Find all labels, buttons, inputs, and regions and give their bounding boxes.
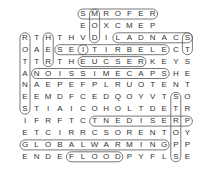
grid-letter[interactable]: T — [31, 103, 43, 115]
grid-letter[interactable]: P — [181, 115, 193, 127]
grid-letter[interactable]: A — [100, 139, 112, 151]
grid-letter[interactable]: T — [181, 79, 193, 91]
grid-letter[interactable]: M — [89, 8, 101, 20]
grid-letter[interactable]: Q — [112, 91, 124, 103]
grid-letter[interactable]: A — [31, 44, 43, 56]
grid-letter[interactable]: E — [42, 44, 54, 56]
grid-letter[interactable]: A — [158, 32, 170, 44]
grid-letter[interactable]: E — [19, 127, 31, 139]
grid-letter[interactable]: P — [181, 139, 193, 151]
grid-letter[interactable]: V — [77, 32, 89, 44]
grid-letter[interactable]: M — [100, 68, 112, 80]
grid-letter[interactable]: R — [19, 32, 31, 44]
grid-letter[interactable]: F — [54, 115, 66, 127]
grid-letter[interactable]: I — [54, 68, 66, 80]
grid-letter[interactable]: F — [77, 79, 89, 91]
grid-letter[interactable]: R — [65, 127, 77, 139]
grid-letter[interactable]: R — [112, 79, 124, 91]
grid-letter[interactable]: E — [19, 151, 31, 163]
grid-letter[interactable]: I — [42, 103, 54, 115]
grid-letter[interactable]: I — [54, 127, 66, 139]
grid-letter[interactable]: L — [158, 151, 170, 163]
grid-letter[interactable]: R — [147, 8, 159, 20]
grid-letter[interactable]: M — [123, 20, 135, 32]
grid-letter[interactable]: Y — [135, 91, 147, 103]
grid-letter[interactable]: O — [135, 79, 147, 91]
grid-letter[interactable]: C — [89, 127, 101, 139]
grid-letter[interactable]: Y — [181, 127, 193, 139]
grid-letter[interactable]: E — [135, 44, 147, 56]
grid-letter[interactable]: E — [89, 91, 101, 103]
grid-letter[interactable]: F — [65, 91, 77, 103]
grid-letter[interactable]: L — [100, 79, 112, 91]
grid-letter[interactable]: P — [54, 79, 66, 91]
grid-letter[interactable]: S — [65, 68, 77, 80]
grid-letter[interactable]: R — [135, 56, 147, 68]
grid-letter[interactable]: L — [77, 151, 89, 163]
grid-letter[interactable]: Y — [170, 56, 182, 68]
grid-letter[interactable]: T — [54, 32, 66, 44]
grid-letter[interactable]: I — [77, 44, 89, 56]
grid-letter[interactable]: R — [123, 127, 135, 139]
grid-letter[interactable]: R — [42, 115, 54, 127]
grid-letter[interactable]: W — [89, 139, 101, 151]
grid-letter[interactable]: E — [42, 79, 54, 91]
grid-letter[interactable]: O — [123, 91, 135, 103]
grid-letter[interactable]: A — [54, 103, 66, 115]
grid-letter[interactable]: E — [158, 115, 170, 127]
grid-letter[interactable]: G — [19, 139, 31, 151]
grid-letter[interactable]: N — [147, 127, 159, 139]
grid-letter[interactable]: E — [65, 79, 77, 91]
grid-letter[interactable]: F — [123, 8, 135, 20]
grid-letter[interactable]: D — [54, 91, 66, 103]
grid-letter[interactable]: O — [19, 44, 31, 56]
grid-letter[interactable]: C — [77, 115, 89, 127]
grid-letter[interactable]: E — [31, 91, 43, 103]
grid-letter[interactable]: S — [112, 56, 124, 68]
grid-letter[interactable]: I — [65, 103, 77, 115]
grid-letter[interactable]: O — [89, 103, 101, 115]
grid-letter[interactable]: L — [77, 139, 89, 151]
grid-letter[interactable]: A — [135, 68, 147, 80]
grid-letter[interactable]: O — [89, 20, 101, 32]
grid-letter[interactable]: M — [123, 139, 135, 151]
grid-letter[interactable]: I — [100, 32, 112, 44]
grid-letter[interactable]: T — [170, 103, 182, 115]
grid-letter[interactable]: E — [135, 8, 147, 20]
grid-letter[interactable]: A — [19, 68, 31, 80]
grid-letter[interactable]: E — [19, 91, 31, 103]
grid-letter[interactable]: O — [112, 127, 124, 139]
grid-letter[interactable]: I — [100, 44, 112, 56]
grid-letter[interactable]: S — [170, 151, 182, 163]
grid-letter[interactable]: O — [42, 139, 54, 151]
grid-letter[interactable]: N — [170, 79, 182, 91]
grid-letter[interactable]: F — [31, 115, 43, 127]
grid-letter[interactable]: D — [89, 32, 101, 44]
grid-letter[interactable]: H — [65, 56, 77, 68]
grid-letter[interactable]: U — [123, 79, 135, 91]
grid-letter[interactable]: L — [123, 103, 135, 115]
grid-letter[interactable]: I — [19, 115, 31, 127]
grid-letter[interactable]: P — [123, 151, 135, 163]
grid-letter[interactable]: A — [31, 79, 43, 91]
grid-letter[interactable]: M — [42, 91, 54, 103]
grid-letter[interactable]: E — [65, 44, 77, 56]
grid-letter[interactable]: T — [147, 79, 159, 91]
grid-letter[interactable]: H — [170, 68, 182, 80]
grid-letter[interactable]: D — [112, 151, 124, 163]
grid-letter[interactable]: C — [42, 127, 54, 139]
grid-letter[interactable]: T — [158, 91, 170, 103]
grid-letter[interactable]: S — [158, 68, 170, 80]
grid-letter[interactable]: O — [112, 103, 124, 115]
grid-letter[interactable]: E — [158, 103, 170, 115]
grid-letter[interactable]: E — [158, 56, 170, 68]
grid-letter[interactable]: D — [135, 32, 147, 44]
grid-letter[interactable]: N — [147, 139, 159, 151]
grid-letter[interactable]: C — [123, 68, 135, 80]
grid-letter[interactable]: L — [112, 32, 124, 44]
grid-letter[interactable]: E — [158, 44, 170, 56]
grid-letter[interactable]: R — [42, 56, 54, 68]
grid-letter[interactable]: T — [19, 56, 31, 68]
grid-letter[interactable]: P — [147, 20, 159, 32]
grid-letter[interactable]: X — [100, 20, 112, 32]
